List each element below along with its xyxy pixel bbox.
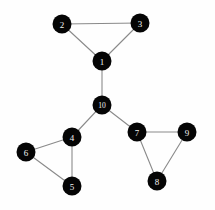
graph-node-6[interactable]: 6 bbox=[17, 143, 36, 162]
graph-node-9[interactable]: 9 bbox=[178, 123, 197, 142]
graph-node-10[interactable]: 10 bbox=[93, 96, 112, 115]
graph-node-circle-2[interactable] bbox=[53, 15, 72, 34]
graph-node-circle-6[interactable] bbox=[17, 143, 36, 162]
graph-node-8[interactable]: 8 bbox=[148, 172, 167, 191]
graph-node-circle-9[interactable] bbox=[178, 123, 197, 142]
graph-node-3[interactable]: 3 bbox=[131, 14, 150, 33]
graph-node-5[interactable]: 5 bbox=[63, 177, 82, 196]
graph-node-7[interactable]: 7 bbox=[128, 123, 147, 142]
graph-node-1[interactable]: 1 bbox=[93, 52, 112, 71]
node-layer: 12345678910 bbox=[17, 14, 197, 196]
graph-diagram: 12345678910 bbox=[0, 0, 215, 210]
graph-node-circle-5[interactable] bbox=[63, 177, 82, 196]
graph-node-circle-1[interactable] bbox=[93, 52, 112, 71]
graph-node-4[interactable]: 4 bbox=[63, 128, 82, 147]
graph-edge-2-3 bbox=[62, 23, 140, 24]
graph-node-2[interactable]: 2 bbox=[53, 15, 72, 34]
graph-node-circle-4[interactable] bbox=[63, 128, 82, 147]
graph-node-circle-10[interactable] bbox=[93, 96, 112, 115]
graph-node-circle-8[interactable] bbox=[148, 172, 167, 191]
graph-node-circle-7[interactable] bbox=[128, 123, 147, 142]
graph-node-circle-3[interactable] bbox=[131, 14, 150, 33]
